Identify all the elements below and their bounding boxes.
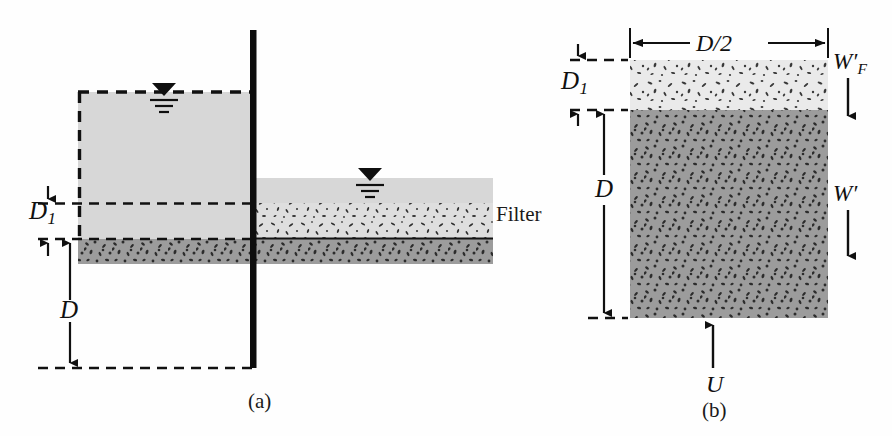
label-filter-weight: W′F — [833, 50, 867, 73]
block-soil-layer — [630, 110, 828, 318]
upstream-water-body — [78, 92, 252, 239]
label-d-over-2: D/2 — [696, 31, 732, 55]
soil-layer-right — [250, 238, 493, 264]
sheet-pile-wall — [250, 30, 257, 368]
label-soil-weight: W′ — [833, 182, 857, 205]
label-d1-panel-b: D1 — [561, 68, 588, 93]
label-filter: Filter — [496, 204, 542, 225]
soil-layer-left — [78, 239, 250, 264]
label-d-panel-a: D — [60, 297, 78, 322]
panel-a-graphics — [38, 30, 493, 368]
label-d-panel-b: D — [595, 176, 613, 201]
label-uplift-force: U — [706, 372, 723, 396]
block-filter-layer — [630, 60, 828, 110]
label-d1-panel-a: D1 — [29, 198, 56, 223]
figure-container: D1 D Filter (a) D/2 D1 D W′F W′ U (b) — [0, 0, 892, 436]
caption-panel-b: (b) — [702, 400, 727, 421]
downstream-filter-blanket — [250, 203, 493, 238]
figure-graphics — [0, 0, 892, 436]
caption-panel-a: (a) — [248, 391, 271, 412]
